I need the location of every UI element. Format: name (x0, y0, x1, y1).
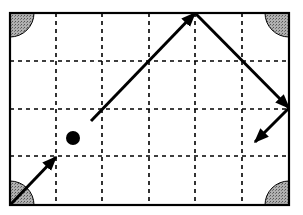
billiard-diagram (0, 0, 303, 215)
ball (66, 131, 80, 145)
path-arrow (255, 108, 289, 142)
path-arrow (91, 13, 195, 121)
pocket-top-right (265, 0, 303, 37)
pocket-top-left (0, 0, 34, 37)
pocket-bottom-right (265, 181, 303, 215)
